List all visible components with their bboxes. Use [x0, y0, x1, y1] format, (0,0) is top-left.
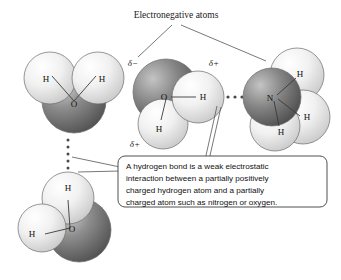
- molecule-water-center: O H H δ− δ+ δ+: [128, 58, 224, 149]
- callout-line-4: charged atom such as nitrogen or oxygen.: [126, 198, 277, 207]
- hydrogen-sphere-left: [24, 52, 76, 104]
- callout-line-1: A hydrogen bond is a weak electrostatic: [126, 162, 269, 171]
- callout-line-3: charged hydrogen atom and a partially: [126, 186, 265, 195]
- label-oxygen: O: [161, 92, 168, 102]
- label-oxygen: O: [71, 99, 78, 109]
- label-hydrogen-right: H: [200, 92, 207, 102]
- label-hydrogen-top: H: [297, 69, 304, 79]
- callout-pointer-left-lower: [78, 171, 120, 172]
- label-hydrogen-left: H: [29, 229, 36, 239]
- label-hydrogen-right: H: [304, 112, 311, 122]
- charge-label-hydrogen-bottom: δ+: [130, 139, 140, 149]
- label-hydrogen-left: H: [43, 74, 50, 84]
- callout-line-2: interaction between a partially positive…: [126, 174, 270, 183]
- label-hydrogen-bottom: H: [278, 127, 285, 137]
- label-hydrogen-right: H: [99, 74, 106, 84]
- molecule-water-bottom-left: H H O: [18, 172, 111, 262]
- molecule-water-top-left: H H O: [24, 52, 124, 133]
- charge-label-hydrogen-right: δ+: [209, 58, 219, 68]
- label-oxygen: O: [69, 224, 76, 234]
- label-nitrogen: N: [267, 93, 274, 103]
- diagram-canvas: Electronegative atoms H H O: [0, 0, 341, 280]
- molecule-ammonia-right: H H H N: [243, 48, 330, 151]
- label-hydrogen-top: H: [65, 183, 72, 193]
- leader-line-oxygen: [138, 25, 172, 57]
- charge-label-oxygen: δ−: [128, 58, 138, 68]
- hydrogen-sphere-left: [18, 204, 66, 252]
- label-hydrogen-bottom: H: [156, 124, 163, 134]
- hydrogen-bond-diagram: Electronegative atoms H H O: [0, 0, 341, 280]
- callout-pointer-left-upper: [72, 157, 120, 167]
- hbond-vertical-left: [67, 139, 70, 177]
- leader-line-nitrogen: [181, 25, 266, 61]
- title-electronegative-atoms: Electronegative atoms: [134, 10, 219, 20]
